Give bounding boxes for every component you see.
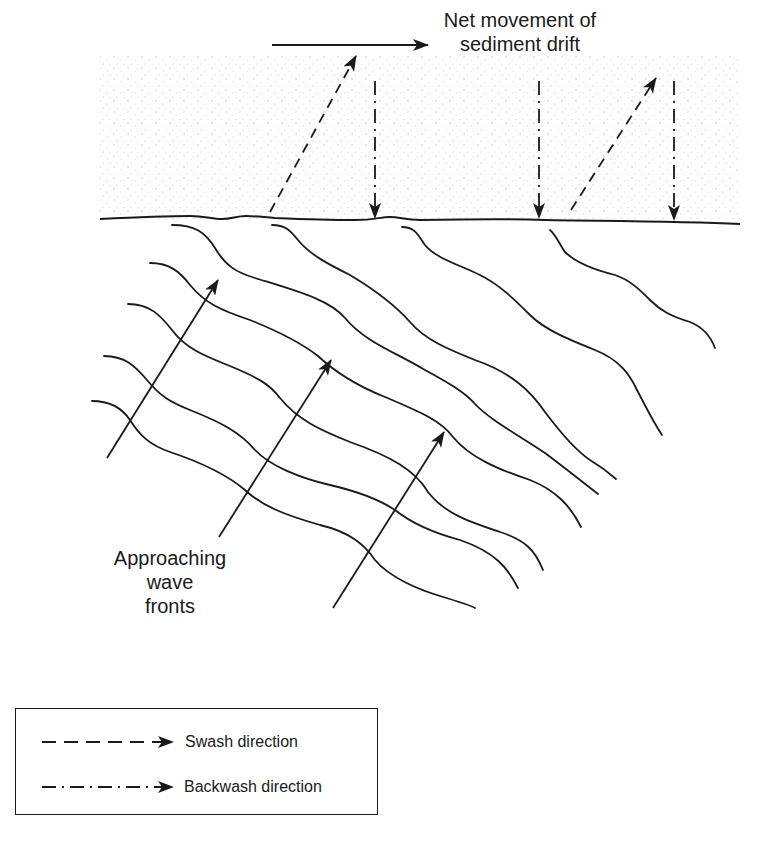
wave-front-line [402,227,662,435]
legend-box: Swash direction Backwash direction [15,708,378,815]
wave-label-line2: wave [100,570,240,594]
legend-item-swash: Swash direction [185,732,298,752]
drift-label-line1: Net movement of [435,8,605,32]
drift-label: Net movement of sediment drift [435,8,605,56]
wave-front-line [172,225,598,494]
beach-sand-region [100,55,740,220]
legend-item-backwash: Backwash direction [184,777,322,797]
wave-fronts-label: Approaching wave fronts [100,546,240,618]
wave-label-line1: Approaching [100,546,240,570]
wave-front-line [272,225,616,479]
wave-label-line3: fronts [100,594,240,618]
wave-ray-arrow-icon [219,360,331,537]
wave-front-line [550,230,715,348]
sand-fill [100,55,740,220]
wave-ray-arrow-icon [107,280,218,458]
drift-label-line2: sediment drift [435,32,605,56]
